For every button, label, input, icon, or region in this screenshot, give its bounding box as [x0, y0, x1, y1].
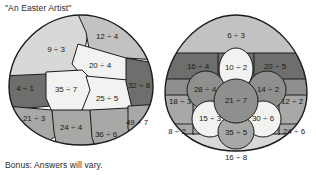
cell-label-r2: 16 ÷ 4 [187, 62, 210, 71]
cell-label-r6: 14 ÷ 2 [257, 85, 280, 94]
cell-label-l11: 49 ÷ 7 [126, 118, 149, 127]
cell-label-l8: 21 ÷ 3 [23, 114, 46, 123]
cell-label-r13: 24 ÷ 6 [283, 127, 306, 136]
cell-label-l7: 32 ÷ 8 [128, 81, 151, 90]
worksheet-page: "An Easter Artist" [0, 0, 316, 175]
cell-label-l6: 25 ÷ 5 [96, 94, 119, 103]
cell-label-r11: 30 ÷ 6 [252, 114, 275, 123]
cell-label-r15: 16 ÷ 8 [225, 153, 248, 162]
cell-label-r12: 8 ÷ 2 [168, 127, 186, 136]
cell-label-r10: 15 ÷ 3 [199, 114, 222, 123]
cell-label-r14: 35 ÷ 5 [225, 128, 248, 137]
cell-label-l4: 4 ÷ 1 [16, 84, 34, 93]
cell-label-r4: 10 ÷ 2 [225, 63, 248, 72]
cell-label-r8: 12 ÷ 2 [281, 97, 304, 106]
cell-label-l9: 24 ÷ 4 [60, 123, 83, 132]
cell-label-l1: 9 ÷ 3 [47, 45, 65, 54]
left-egg: 9 ÷ 3 12 ÷ 4 20 ÷ 4 4 ÷ 1 35 ÷ 7 25 ÷ 5 … [6, 14, 156, 146]
cell-label-l5: 35 ÷ 7 [55, 85, 78, 94]
cell-l8 [6, 106, 56, 150]
page-title: "An Easter Artist" [5, 3, 71, 13]
cell-label-r1: 6 ÷ 3 [227, 31, 245, 40]
right-egg: 6 ÷ 3 16 ÷ 4 20 ÷ 5 10 ÷ 2 28 ÷ 4 14 ÷ 2… [160, 14, 312, 154]
bonus-text: Bonus: Answers will vary. [5, 160, 103, 170]
cell-label-l10: 36 ÷ 6 [95, 130, 118, 139]
cell-label-r3: 20 ÷ 5 [264, 62, 287, 71]
cell-label-l3: 20 ÷ 4 [89, 61, 112, 70]
cell-label-r5: 28 ÷ 4 [194, 85, 217, 94]
cell-label-r7: 18 ÷ 3 [169, 97, 192, 106]
cell-label-l2: 12 ÷ 4 [96, 32, 119, 41]
cell-label-r9: 21 ÷ 7 [225, 96, 248, 105]
